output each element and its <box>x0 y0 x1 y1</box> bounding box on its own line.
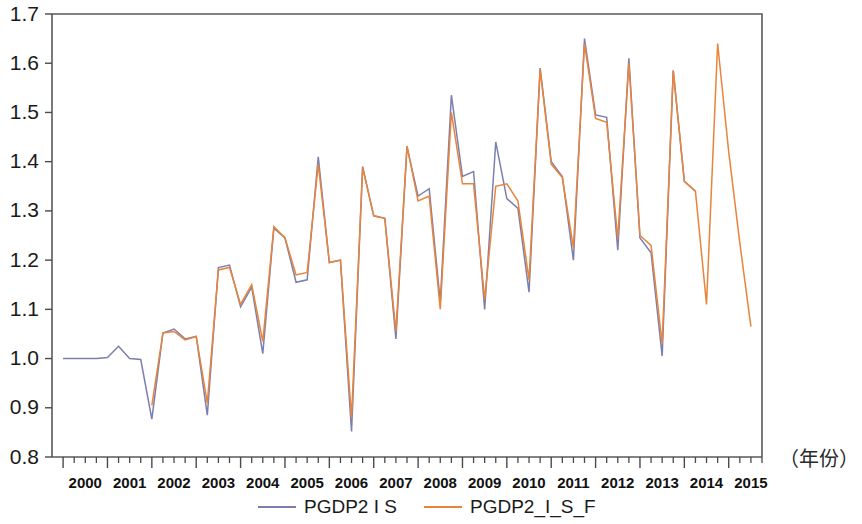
x-tick-label: 2011 <box>557 474 590 491</box>
y-tick-label: 1.2 <box>10 248 39 271</box>
x-tick-label: 2009 <box>468 474 501 491</box>
y-tick-label: 1.4 <box>10 149 40 172</box>
y-tick-label: 0.9 <box>10 395 39 418</box>
y-tick-label: 1.5 <box>10 100 39 123</box>
x-tick-label: 2010 <box>512 474 545 491</box>
x-tick-label: 2005 <box>290 474 323 491</box>
x-tick-label: 2004 <box>246 474 280 491</box>
y-tick-label: 0.8 <box>10 445 39 468</box>
x-tick-label: 2006 <box>335 474 368 491</box>
y-tick-label: 1.1 <box>10 297 39 320</box>
y-axis-ticks <box>45 14 52 457</box>
x-tick-label: 2002 <box>157 474 190 491</box>
series-line-actual <box>63 39 695 432</box>
y-tick-label: 1.0 <box>10 346 39 369</box>
legend-label-1: PGDP2_I_S_F <box>470 496 596 518</box>
legend-label-0: PGDP2 I S <box>304 496 397 517</box>
data-series-group <box>63 39 751 432</box>
x-tick-label: 2000 <box>69 474 102 491</box>
plot-box <box>52 14 762 457</box>
x-axis-ticks <box>63 457 762 468</box>
x-tick-label: 2001 <box>113 474 146 491</box>
x-tick-label: 2013 <box>645 474 678 491</box>
x-tick-label: 2007 <box>379 474 412 491</box>
plot-frame <box>52 14 762 457</box>
x-tick-label: 2012 <box>601 474 634 491</box>
chart-legend: PGDP2 I SPGDP2_I_S_F <box>258 496 596 518</box>
x-tick-label: 2008 <box>424 474 457 491</box>
x-axis-labels: 2000200120022003200420052006200720082009… <box>69 474 768 491</box>
y-tick-label: 1.7 <box>10 2 39 25</box>
x-tick-label: 2003 <box>202 474 235 491</box>
chart-figure: 1.71.61.51.41.31.21.11.00.90.8 200020012… <box>0 0 862 524</box>
x-tick-label: 2014 <box>690 474 724 491</box>
y-tick-label: 1.3 <box>10 198 39 221</box>
x-axis-caption: （年份） <box>779 448 859 470</box>
y-axis-labels: 1.71.61.51.41.31.21.11.00.90.8 <box>10 2 40 468</box>
x-tick-label: 2015 <box>734 474 767 491</box>
y-tick-label: 1.6 <box>10 51 39 74</box>
line-chart-svg: 1.71.61.51.41.31.21.11.00.90.8 200020012… <box>0 0 862 524</box>
